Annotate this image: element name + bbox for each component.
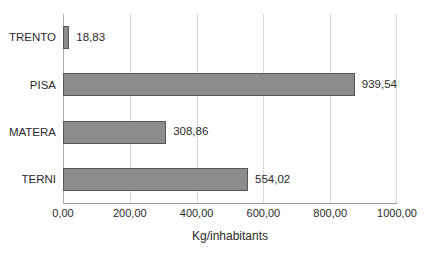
category-label-terni: TERNI <box>0 174 56 186</box>
bar-value-label: 939,54 <box>362 79 397 91</box>
bar-trento <box>63 26 69 49</box>
bar-value-label: 554,02 <box>255 174 290 186</box>
x-tick-label: 400,00 <box>180 208 214 219</box>
bar-row: 18,83 <box>63 14 397 61</box>
bar-row: 308,86 <box>63 109 397 156</box>
plot-area: 18,83 939,54 308,86 554,02 <box>63 14 397 203</box>
bar-row: 939,54 <box>63 61 397 108</box>
category-label-trento: TRENTO <box>0 32 56 44</box>
bar-value-label: 308,86 <box>173 126 208 138</box>
bar-terni <box>63 168 248 191</box>
bar-row: 554,02 <box>63 156 397 203</box>
category-label-matera: MATERA <box>0 127 56 139</box>
bar-matera <box>63 121 166 144</box>
x-axis-line <box>63 203 397 204</box>
category-label-pisa: PISA <box>0 80 56 92</box>
x-axis-title: Kg/inhabitants <box>63 230 397 242</box>
x-tick-label: 0,00 <box>52 208 73 219</box>
x-tick-label: 200,00 <box>113 208 147 219</box>
bar-value-label: 18,83 <box>76 32 105 44</box>
bar-chart: 18,83 939,54 308,86 554,02 TRENTO PISA M… <box>0 0 429 255</box>
bar-pisa <box>63 73 355 96</box>
x-tick-label: 600,00 <box>247 208 281 219</box>
x-tick-label: 800,00 <box>313 208 347 219</box>
x-tick-label: 1000,00 <box>377 208 417 219</box>
